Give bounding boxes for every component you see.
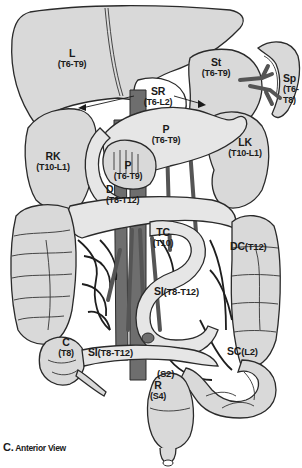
descending-colon-abbr: DC [230,240,245,252]
sigmoid-colon-segments: (L2) [241,346,258,357]
label-suprarenal: SR (T6-L2) [138,86,178,108]
pancreas-head-abbr: P [110,160,146,171]
transverse-colon-abbr: TC [148,227,178,238]
right-kidney-abbr: RK [30,151,76,162]
cecum-segments: (T8) [54,348,78,359]
label-cecum: C (T8) [54,337,78,359]
small-intestine-upper-abbr: SI [154,285,164,297]
cecum-abbr: C [54,337,78,348]
liver-segments: (T6-T9) [52,59,92,70]
rectum-abbr: R [141,380,175,391]
ileum-cut-end [142,333,154,343]
label-spleen: Sp (T6- T8) [283,73,302,106]
label-small-intestine-lower: SI(T8-T12) [88,346,133,358]
spleen-segments-line2: T8) [283,95,302,106]
left-kidney-abbr: LK [222,137,268,148]
spleen-abbr: Sp [283,73,302,84]
pancreas-head-segments: (T6-T9) [110,171,146,182]
appendix [76,370,106,396]
caption-text: Anterior View [15,443,66,453]
sigmoid-colon-shape [180,360,276,418]
label-transverse-colon: TC (T10) [148,227,178,249]
suprarenal-abbr: SR [138,86,178,97]
spleen-segments-line1: (T6- [283,84,302,95]
label-right-kidney: RK (T10-L1) [30,151,76,173]
label-rectosigmoid: (S2) [157,368,174,379]
label-pancreas-body: P (T6-T9) [146,124,186,146]
label-rectum: R (S4) [141,380,175,402]
label-left-kidney: LK (T10-L1) [222,137,268,159]
label-pancreas-head: P (T6-T9) [110,160,146,182]
duodenum-abbr: D [106,184,146,195]
liver-abbr: L [52,48,92,59]
small-intestine-lower-abbr: SI [88,346,98,358]
pancreas-body-segments: (T6-T9) [146,135,186,146]
left-kidney-segments: (T10-L1) [222,148,268,159]
stomach-segments: (T6-T9) [196,68,236,79]
rectosigmoid-segments: (S2) [157,368,174,379]
stomach-abbr: St [196,57,236,68]
small-intestine-lower-segments: (T8-T12) [98,347,133,358]
pancreas-body-abbr: P [146,124,186,135]
suprarenal-segments: (T6-L2) [138,97,178,108]
figure-caption: C. Anterior View [3,441,66,453]
sigmoid-colon-abbr: SC [227,345,241,357]
duodenum-segments: (T8-T12) [106,195,146,206]
rectum-segments: (S4) [141,391,175,402]
label-small-intestine-upper: SI(T8-T12) [154,285,199,297]
label-stomach: St (T6-T9) [196,57,236,79]
right-kidney-segments: (T10-L1) [30,162,76,173]
transverse-colon-segments: (T10) [148,238,178,249]
label-descending-colon: DC(T12) [230,240,266,252]
label-duodenum: D (T8-T12) [106,184,146,206]
descending-colon-segments: (T12) [245,241,267,252]
label-sigmoid-colon: SC(L2) [227,345,258,357]
small-intestine-upper-segments: (T8-T12) [164,286,199,297]
label-liver: L (T6-T9) [52,48,92,70]
caption-letter: C. [3,441,13,453]
